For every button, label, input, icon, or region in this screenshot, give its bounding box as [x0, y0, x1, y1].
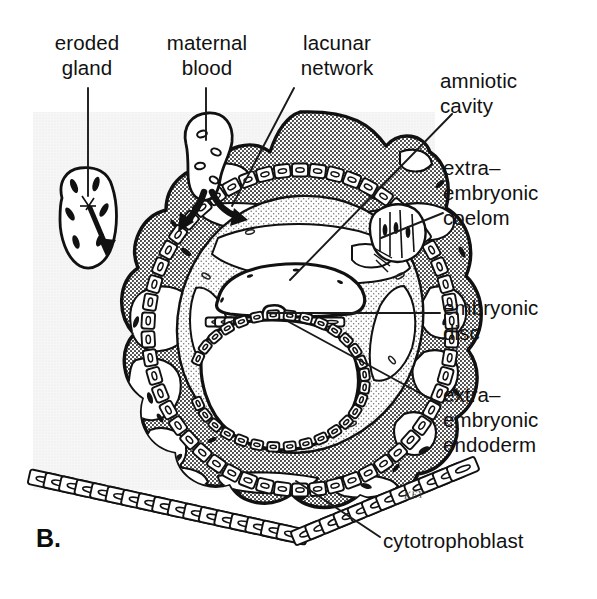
- epithelial-cell: [299, 312, 313, 324]
- artist-signature: KEY: [404, 488, 425, 500]
- label-cytotrophoblast: cytotrophoblast: [383, 528, 597, 553]
- epithelial-cell: [256, 477, 275, 493]
- label-amniotic-cavity: amniotic cavity: [440, 68, 570, 118]
- epithelial-cell: [274, 164, 291, 179]
- label-lacunar-network: lacunar network: [272, 30, 402, 80]
- epithelial-cell: [309, 481, 326, 496]
- epithelial-cell: [267, 442, 279, 452]
- epithelial-cell: [292, 164, 308, 177]
- epithelial-cell: [141, 331, 155, 348]
- epithelial-cell: [326, 477, 345, 493]
- epithelial-cell: [309, 164, 326, 179]
- epithelial-cell: [143, 349, 158, 367]
- label-extraembryonic-coelom: extra– embryonic coelom: [443, 155, 588, 230]
- epithelial-cell: [283, 310, 296, 321]
- epithelial-cell: [446, 456, 479, 481]
- epithelial-cell: [299, 438, 313, 450]
- panel-letter: B.: [36, 524, 61, 553]
- epithelial-cell: [359, 381, 370, 394]
- figure-canvas: eroded glandmaternal bloodlacunar networ…: [0, 0, 597, 599]
- epithelial-cell: [442, 349, 457, 367]
- epithelial-cell: [283, 441, 296, 452]
- epithelial-cell: [292, 484, 308, 497]
- epithelial-cell: [267, 310, 279, 320]
- epithelial-cell: [326, 166, 345, 182]
- epithelial-cell: [143, 293, 158, 311]
- epithelial-cell: [250, 311, 264, 323]
- epithelial-cell: [274, 481, 291, 496]
- epithelial-cell: [141, 312, 155, 329]
- epithelial-cell: [256, 166, 275, 182]
- label-extraembryonic-endoderm: extra– embryonic endoderm: [443, 382, 595, 457]
- epithelial-cell: [250, 439, 264, 451]
- label-embryonic-disc: embryonic disc: [443, 295, 588, 345]
- label-eroded-gland: eroded gland: [28, 30, 146, 80]
- label-maternal-blood: maternal blood: [148, 30, 266, 80]
- epithelial-cell: [359, 368, 370, 381]
